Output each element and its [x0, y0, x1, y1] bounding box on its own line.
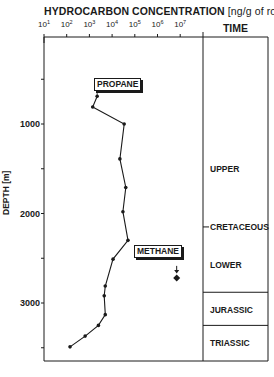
propane-data-point [126, 239, 130, 243]
propane-callout: PROPANE [94, 78, 141, 91]
propane-data-point [91, 105, 95, 109]
methane-diamond-marker [173, 274, 180, 281]
propane-data-point [118, 157, 122, 161]
chart-plot-area [0, 0, 274, 377]
propane-data-point [97, 324, 101, 328]
propane-data-point [83, 334, 87, 338]
propane-data-point [102, 294, 106, 298]
methane-arrow-head-icon [174, 270, 179, 274]
propane-data-point [103, 284, 107, 288]
propane-data-point [111, 257, 115, 261]
propane-data-point [122, 122, 126, 126]
propane-data-point [124, 186, 128, 190]
propane-data-point [103, 313, 107, 317]
methane-callout: METHANE [134, 245, 182, 258]
propane-data-point [68, 345, 72, 349]
propane-data-point [121, 210, 125, 214]
propane-line [70, 96, 128, 347]
